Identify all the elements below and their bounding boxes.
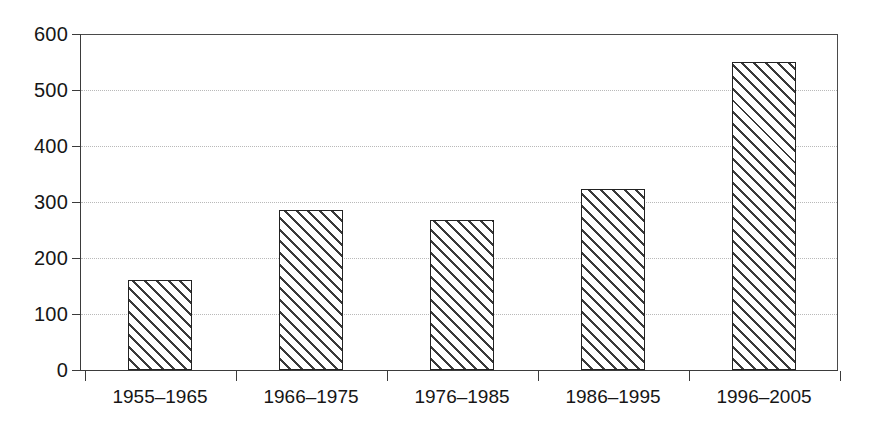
y-axis-tick — [72, 370, 80, 371]
gridline — [81, 146, 837, 147]
x-axis-line — [80, 370, 838, 371]
bar-chart: 0100200300400500600 1955–19651966–197519… — [0, 0, 870, 423]
y-axis-tick-label: 200 — [0, 248, 68, 268]
x-axis-category-label: 1996–2005 — [689, 386, 839, 408]
y-axis-tick — [72, 90, 80, 91]
y-axis-tick-label: 400 — [0, 136, 68, 156]
bar — [581, 189, 645, 370]
bar — [128, 280, 192, 370]
y-axis-tick-label: 600 — [0, 24, 68, 44]
y-axis-tick-label: 500 — [0, 80, 68, 100]
gridline — [81, 202, 837, 203]
x-axis-tick — [85, 371, 86, 381]
x-axis-tick — [387, 371, 388, 381]
y-axis-tick — [72, 258, 80, 259]
y-axis-tick-label: 100 — [0, 304, 68, 324]
y-axis-tick-label: 0 — [0, 360, 68, 380]
gridline — [81, 90, 837, 91]
bar — [430, 220, 494, 370]
x-axis-category-label: 1976–1985 — [387, 386, 537, 408]
plot-frame-top — [80, 34, 838, 35]
y-axis-tick — [72, 202, 80, 203]
bar — [279, 210, 343, 370]
y-axis-tick — [72, 34, 80, 35]
plot-frame-right — [837, 34, 838, 370]
x-axis-tick — [840, 371, 841, 381]
y-axis-tick-label: 300 — [0, 192, 68, 212]
bar — [732, 62, 796, 370]
x-axis-tick — [236, 371, 237, 381]
y-axis-tick — [72, 314, 80, 315]
x-axis-tick — [689, 371, 690, 381]
x-axis-category-label: 1986–1995 — [538, 386, 688, 408]
x-axis-category-label: 1955–1965 — [85, 386, 235, 408]
y-axis-tick — [72, 146, 80, 147]
x-axis-tick — [538, 371, 539, 381]
x-axis-category-label: 1966–1975 — [236, 386, 386, 408]
